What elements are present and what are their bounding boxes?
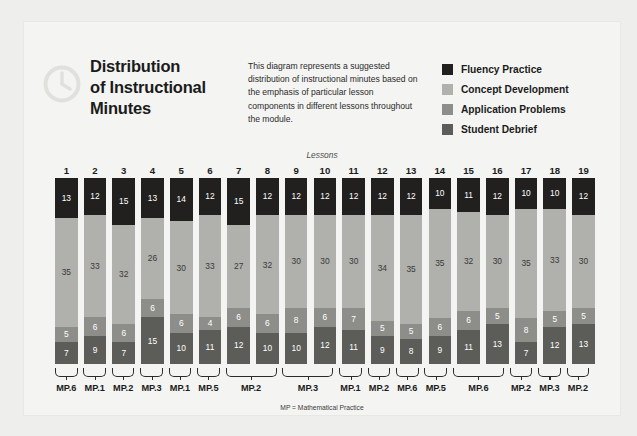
bar-segment-application-problems: 7 bbox=[342, 308, 365, 330]
bar-segment-fluency-practice: 10 bbox=[543, 178, 566, 209]
bar-segment-application-problems: 8 bbox=[285, 308, 308, 333]
bar-segment-concept-development: 32 bbox=[256, 215, 279, 314]
bar-segment-application-problems: 6 bbox=[457, 311, 480, 330]
bar-segment-fluency-practice: 11 bbox=[457, 178, 480, 212]
bar-segment-concept-development: 30 bbox=[314, 215, 337, 308]
bar-segment-fluency-practice: 13 bbox=[141, 178, 164, 218]
stacked-bar: 103569 bbox=[429, 178, 452, 364]
bar-segment-concept-development: 33 bbox=[199, 215, 222, 317]
chart-column[interactable]: 71527612 bbox=[227, 164, 250, 364]
bar-segment-fluency-practice: 12 bbox=[400, 178, 423, 215]
legend-item-label: Concept Development bbox=[461, 84, 569, 95]
bar-segment-student-debrief: 13 bbox=[572, 324, 595, 364]
stacked-bar: 1233411 bbox=[199, 178, 222, 364]
bar-segment-student-debrief: 15 bbox=[141, 317, 164, 364]
bar-segment-application-problems: 6 bbox=[112, 324, 135, 343]
mp-brace bbox=[538, 368, 561, 377]
mp-label: MP.1 bbox=[339, 383, 362, 393]
stacked-bar: 1132611 bbox=[457, 178, 480, 364]
bar-segment-concept-development: 35 bbox=[400, 215, 423, 324]
bar-segment-fluency-practice: 13 bbox=[55, 178, 78, 218]
column-number-label: 2 bbox=[84, 164, 107, 178]
legend-item-fluency-practice: Fluency Practice bbox=[442, 60, 617, 78]
chart-column[interactable]: 1133557 bbox=[55, 164, 78, 364]
chart-column[interactable]: 81232610 bbox=[256, 164, 279, 364]
mp-brace bbox=[140, 368, 163, 377]
bar-segment-student-debrief: 7 bbox=[515, 342, 538, 364]
legend-swatch-icon bbox=[442, 124, 453, 135]
stacked-bar: 153267 bbox=[112, 178, 135, 364]
infographic-panel: Distribution of Instructional Minutes Th… bbox=[24, 22, 620, 415]
bar-segment-fluency-practice: 10 bbox=[429, 178, 452, 209]
legend-swatch-icon bbox=[442, 104, 453, 115]
stacked-bar: 1326615 bbox=[141, 178, 164, 364]
stacked-bar: 1033512 bbox=[543, 178, 566, 364]
bar-segment-student-debrief: 12 bbox=[314, 327, 337, 364]
chart-column[interactable]: 191230513 bbox=[572, 164, 595, 364]
stacked-bar: 1430610 bbox=[170, 178, 193, 364]
bar-segment-fluency-practice: 12 bbox=[371, 178, 394, 215]
chart-column[interactable]: 13123558 bbox=[400, 164, 423, 364]
footnote: MP = Mathematical Practice bbox=[24, 404, 620, 411]
bar-segment-application-problems: 5 bbox=[371, 321, 394, 337]
mp-brace bbox=[368, 368, 391, 377]
chart-column[interactable]: 181033512 bbox=[543, 164, 566, 364]
bar-segment-fluency-practice: 10 bbox=[515, 178, 538, 209]
chart-column[interactable]: 12123459 bbox=[371, 164, 394, 364]
bar-segment-concept-development: 30 bbox=[285, 215, 308, 308]
chart-column[interactable]: 14103569 bbox=[429, 164, 452, 364]
bar-segment-student-debrief: 9 bbox=[84, 336, 107, 364]
bar-segment-concept-development: 30 bbox=[486, 215, 509, 308]
column-number-label: 4 bbox=[141, 164, 164, 178]
bar-segment-student-debrief: 11 bbox=[342, 330, 365, 364]
bar-segment-fluency-practice: 14 bbox=[170, 178, 193, 221]
chart-column[interactable]: 41326615 bbox=[141, 164, 164, 364]
legend-swatch-icon bbox=[442, 84, 453, 95]
bar-segment-student-debrief: 13 bbox=[486, 324, 509, 364]
bar-segment-application-problems: 5 bbox=[543, 311, 566, 327]
chart-column[interactable]: 51430610 bbox=[170, 164, 193, 364]
column-number-label: 15 bbox=[457, 164, 480, 178]
mp-brace bbox=[55, 368, 78, 377]
stacked-bar: 103587 bbox=[515, 178, 538, 364]
chart-column[interactable]: 101230612 bbox=[314, 164, 337, 364]
chart-columns: 1133557212336931532674132661551430610612… bbox=[55, 164, 595, 364]
chart-column[interactable]: 17103587 bbox=[515, 164, 538, 364]
bar-segment-fluency-practice: 12 bbox=[314, 178, 337, 215]
bar-segment-concept-development: 34 bbox=[371, 215, 394, 320]
mp-label: MP.3 bbox=[538, 383, 561, 393]
chart-column[interactable]: 3153267 bbox=[112, 164, 135, 364]
stacked-bar-chart: Lessons 11335572123369315326741326615514… bbox=[24, 142, 620, 415]
bar-segment-fluency-practice: 15 bbox=[112, 178, 135, 225]
chart-column[interactable]: 111230711 bbox=[342, 164, 365, 364]
mp-label: MP.6 bbox=[55, 383, 78, 393]
mp-label: MP.2 bbox=[226, 383, 277, 393]
chart-column[interactable]: 151132611 bbox=[457, 164, 480, 364]
bar-segment-concept-development: 32 bbox=[457, 212, 480, 311]
chart-column[interactable]: 2123369 bbox=[84, 164, 107, 364]
mp-label: MP.5 bbox=[197, 383, 220, 393]
mp-label: MP.2 bbox=[510, 383, 533, 393]
column-number-label: 7 bbox=[227, 164, 250, 178]
chart-column[interactable]: 61233411 bbox=[199, 164, 222, 364]
bar-segment-concept-development: 32 bbox=[112, 225, 135, 324]
bar-segment-concept-development: 26 bbox=[141, 218, 164, 299]
bar-segment-fluency-practice: 12 bbox=[256, 178, 279, 215]
mp-brace bbox=[197, 368, 220, 377]
bar-segment-application-problems: 8 bbox=[515, 318, 538, 343]
chart-column[interactable]: 91230810 bbox=[285, 164, 308, 364]
column-number-label: 18 bbox=[543, 164, 566, 178]
chart-column[interactable]: 161230513 bbox=[486, 164, 509, 364]
clock-icon bbox=[42, 64, 82, 104]
bar-segment-application-problems: 5 bbox=[55, 327, 78, 343]
bar-segment-application-problems: 4 bbox=[199, 317, 222, 329]
mp-brace bbox=[226, 368, 277, 377]
mp-label: MP.2 bbox=[567, 383, 590, 393]
bar-segment-application-problems: 6 bbox=[314, 308, 337, 327]
bar-segment-fluency-practice: 12 bbox=[285, 178, 308, 215]
column-number-label: 16 bbox=[486, 164, 509, 178]
mp-brace bbox=[510, 368, 533, 377]
mp-brace bbox=[424, 368, 447, 377]
bar-segment-concept-development: 35 bbox=[55, 218, 78, 327]
mp-label: MP.1 bbox=[83, 383, 106, 393]
